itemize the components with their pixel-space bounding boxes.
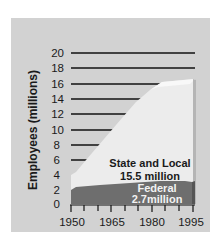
y-tick-6: 6 bbox=[54, 154, 60, 166]
y-tick-10: 10 bbox=[51, 124, 64, 136]
y-tick-2: 2 bbox=[54, 184, 60, 196]
x-tick-1995: 1995 bbox=[178, 216, 204, 228]
state-local-label: State and Local bbox=[109, 157, 190, 169]
y-tick-labels: 20 18 16 14 12 10 8 6 4 2 0 bbox=[51, 47, 64, 210]
x-tick-1980: 1980 bbox=[139, 216, 165, 228]
state-local-value: 15.5 million bbox=[120, 170, 180, 182]
federal-value: 2.7million bbox=[132, 193, 183, 205]
y-tick-0: 0 bbox=[54, 198, 60, 210]
x-axis bbox=[70, 205, 195, 212]
x-tick-1965: 1965 bbox=[99, 216, 125, 228]
y-axis-title: Employees (millions) bbox=[26, 70, 40, 190]
federal-side bbox=[192, 181, 195, 204]
y-tick-4: 4 bbox=[54, 169, 61, 181]
y-tick-20: 20 bbox=[51, 47, 64, 59]
y-tick-16: 16 bbox=[51, 78, 64, 90]
x-tick-labels: 1950 1965 1980 1995 bbox=[59, 216, 204, 228]
x-tick-1950: 1950 bbox=[59, 216, 85, 228]
y-tick-18: 18 bbox=[51, 62, 64, 74]
y-tick-8: 8 bbox=[54, 139, 60, 151]
chart-svg: 20 18 16 14 12 10 8 6 4 2 0 1950 1965 19… bbox=[0, 0, 222, 252]
y-tick-12: 12 bbox=[51, 108, 64, 120]
y-tick-14: 14 bbox=[51, 93, 64, 105]
